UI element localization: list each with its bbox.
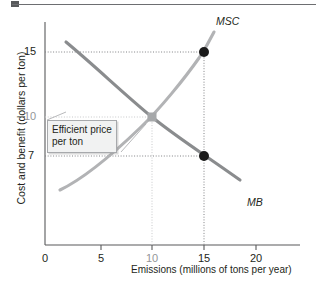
- figure-container: 15 10 7 0 5 10 15 20 Cost and benefit (d…: [0, 0, 316, 284]
- mb-point-marker: [199, 151, 209, 161]
- efficient-point-marker: [148, 113, 157, 122]
- curve-label-mb: MB: [247, 196, 263, 208]
- x-tick-label-20: 20: [250, 252, 262, 264]
- y-axis-title: Cost and benefit (dollars per ton): [15, 38, 27, 218]
- x-tick-label-0: 0: [42, 252, 48, 264]
- x-tick-label-15: 15: [198, 252, 210, 264]
- curve-label-msc: MSC: [216, 15, 239, 27]
- x-tick-label-10: 10: [146, 252, 158, 264]
- callout-leader-top: [47, 112, 66, 120]
- efficient-price-callout: Efficient price per ton: [47, 120, 117, 153]
- y-tick-label-7: 7: [28, 149, 34, 161]
- msc-point-marker: [199, 47, 209, 57]
- x-axis-title: Emissions (millions of tons per year): [131, 264, 292, 275]
- curve-mb: [66, 42, 240, 180]
- x-tick-label-5: 5: [98, 252, 104, 264]
- callout-leader-bottom: [121, 124, 146, 152]
